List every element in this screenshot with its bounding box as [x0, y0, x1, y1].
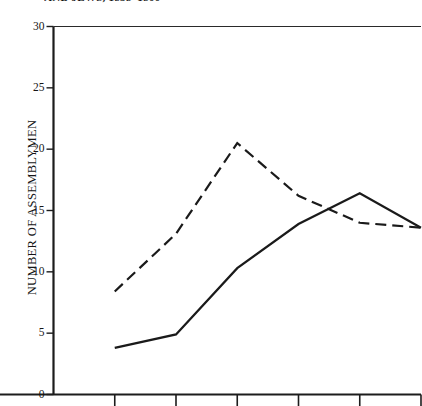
axis-layer [0, 27, 421, 395]
plot-area [0, 0, 422, 406]
tick-layer [47, 27, 422, 406]
y-tick-label: 0 [19, 389, 45, 400]
y-tick-label: 30 [19, 21, 45, 32]
y-tick-label: 20 [19, 143, 45, 154]
series-line-dashed-series [115, 143, 421, 291]
y-tick-label: 5 [19, 327, 45, 338]
chart-figure: AND JEWS, 1838–1866 NUMBER OF ASSEMBLYME… [0, 0, 422, 406]
series-line-solid-series [115, 193, 421, 348]
y-tick-label: 10 [19, 266, 45, 277]
y-tick-label: 15 [19, 205, 45, 216]
y-tick-label: 25 [19, 82, 45, 93]
series-layer [115, 143, 421, 348]
